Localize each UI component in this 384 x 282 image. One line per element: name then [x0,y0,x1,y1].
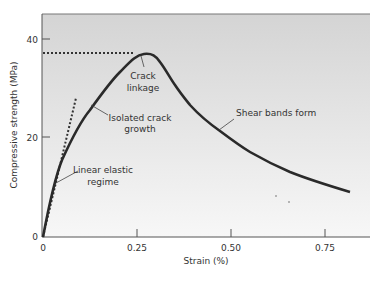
artifact-dot [288,201,290,203]
annotation-text: regime [87,177,119,187]
annotation-text: Shear bands form [236,108,316,118]
artifact-dot [275,195,277,197]
plot-background [42,14,370,237]
annotation-text: Crack [130,71,156,81]
y-tick-label: 40 [27,35,39,45]
annotation-text: growth [124,124,155,134]
x-tick-label: 0.50 [221,243,241,253]
x-tick-label: 0.75 [315,243,335,253]
stress-strain-chart: 0 0.25 0.50 0.75 Strain (%) 0 20 40 Comp… [0,0,384,282]
y-axis-label: Compressive strength (MPa) [9,61,19,188]
annotation-text: Linear elastic [73,165,133,175]
x-axis-label: Strain (%) [183,256,228,266]
annotation-text: linkage [127,83,160,93]
y-tick-label: 20 [27,133,39,143]
y-tick-label: 0 [32,232,38,242]
annotation-text: Isolated crack [109,113,173,123]
x-tick-label: 0.25 [127,243,147,253]
x-tick-label: 0 [40,243,46,253]
